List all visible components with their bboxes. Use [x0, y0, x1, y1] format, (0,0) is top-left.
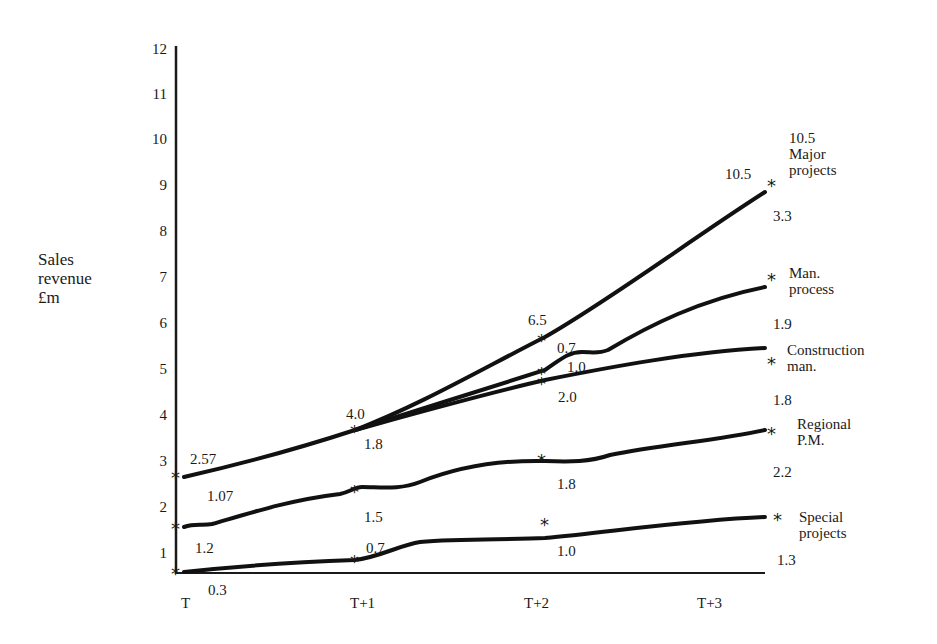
legend-special-projects: Special projects: [799, 509, 846, 541]
line-major-projects: [184, 192, 765, 477]
annotation: 1.2: [195, 540, 214, 556]
marker-icon: *: [350, 483, 359, 501]
y-tick-8: 8: [143, 223, 167, 240]
legend-construction-man: Construction man.: [787, 342, 865, 374]
y-tick-12: 12: [143, 41, 167, 58]
line-special-projects: [184, 517, 765, 572]
x-tick-t: T: [181, 595, 190, 612]
annotation: 0.3: [208, 582, 227, 598]
annotation: 1.07: [207, 488, 233, 504]
marker-icon: *: [350, 423, 359, 441]
legend-major-projects: 10.5 Major projects: [789, 130, 836, 178]
annotation: 3.3: [773, 208, 792, 224]
annotation: 1.3: [777, 552, 796, 568]
x-tick-t3: T+3: [697, 595, 722, 612]
marker-icon: *: [171, 565, 180, 583]
marker-icon: *: [171, 520, 180, 538]
marker-icon: *: [537, 452, 546, 470]
legend-man-process: Man. process: [789, 265, 834, 297]
annotation: 1.0: [567, 359, 586, 375]
y-tick-5: 5: [143, 361, 167, 378]
x-tick-t1: T+1: [350, 595, 375, 612]
marker-icon: *: [767, 271, 776, 289]
legend-regional-pm: Regional P.M.: [797, 416, 851, 448]
chart-canvas: [0, 0, 937, 644]
marker-icon: *: [171, 469, 180, 487]
marker-icon: *: [537, 332, 546, 350]
line-regional-pm: [184, 430, 765, 527]
y-axis-label-line1: Sales: [38, 250, 92, 269]
marker-icon: *: [540, 516, 549, 534]
annotation: 2.2: [773, 464, 792, 480]
annotation: 1.8: [364, 436, 383, 452]
y-tick-2: 2: [143, 499, 167, 516]
annotation: 0.7: [366, 540, 385, 556]
y-tick-7: 7: [143, 269, 167, 286]
y-tick-1: 1: [143, 545, 167, 562]
annotation: 1.8: [557, 476, 576, 492]
y-tick-9: 9: [143, 177, 167, 194]
annotation: 1.5: [364, 509, 383, 525]
marker-icon: *: [350, 553, 359, 571]
y-tick-6: 6: [143, 315, 167, 332]
marker-icon: *: [767, 355, 776, 373]
annotation: 1.0: [557, 543, 576, 559]
line-man-process: [355, 287, 765, 430]
marker-icon: *: [537, 375, 546, 393]
annotation: 2.57: [190, 451, 216, 467]
marker-icon: *: [773, 511, 782, 529]
y-axis-label: Sales revenue £m: [38, 250, 92, 307]
annotation: 10.5: [725, 166, 751, 182]
annotation: 4.0: [346, 406, 365, 422]
y-axis-label-line2: revenue: [38, 269, 92, 288]
annotation: 2.0: [558, 389, 577, 405]
y-tick-11: 11: [143, 86, 167, 103]
annotation: 1.8: [773, 392, 792, 408]
x-tick-t2: T+2: [524, 595, 549, 612]
y-axis-label-line3: £m: [38, 288, 92, 307]
marker-icon: *: [767, 177, 776, 195]
annotation: 1.9: [773, 316, 792, 332]
y-tick-3: 3: [143, 453, 167, 470]
annotation: 6.5: [528, 312, 547, 328]
marker-icon: *: [767, 425, 776, 443]
y-tick-10: 10: [143, 131, 167, 148]
y-tick-4: 4: [143, 407, 167, 424]
annotation: 0.7: [557, 340, 576, 356]
